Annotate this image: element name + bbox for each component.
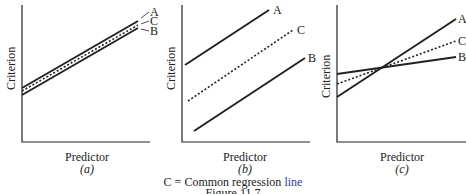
panel-c: A C B Criterion Predictor (c) <box>319 5 466 176</box>
panel-b-label-c: C <box>297 23 305 37</box>
panel-c-sublabel: (c) <box>395 162 408 176</box>
panel-b-ylabel: Criterion <box>164 47 178 90</box>
panel-a-line-b <box>22 28 138 95</box>
panel-a-sublabel: (a) <box>80 162 94 176</box>
panel-c-label-c: C <box>458 34 466 48</box>
figure-canvas: A C B Criterion Predictor (a) A C B Crit… <box>0 0 466 194</box>
panel-a-label-b: B <box>150 24 158 38</box>
panel-a-ylabel: Criterion <box>4 47 18 90</box>
panel-b-line-b <box>194 58 305 131</box>
panel-c-ylabel: Criterion <box>319 55 333 98</box>
panel-c-line-a <box>337 19 456 97</box>
panel-a-leader-c <box>141 21 149 24</box>
panel-b-line-a <box>185 10 269 65</box>
panel-c-label-a: A <box>458 12 466 26</box>
panel-b-label-b: B <box>308 51 316 65</box>
panel-a-line-c <box>22 25 138 91</box>
panel-a-leader-a <box>141 12 149 18</box>
panel-b: A C B Criterion Predictor (b) <box>164 3 316 176</box>
figure-number-clipped: Figure 11.7 <box>0 186 466 194</box>
panel-a-line-a <box>22 21 138 88</box>
panel-b-line-c <box>188 30 293 101</box>
panel-b-sublabel: (b) <box>238 162 252 176</box>
panel-c-label-b: B <box>458 50 466 64</box>
panel-a: A C B Criterion Predictor (a) <box>4 5 159 176</box>
panel-b-label-a: A <box>273 3 282 17</box>
panel-c-line-b <box>337 57 456 74</box>
panel-c-line-c <box>337 41 456 84</box>
panel-a-leader-b <box>141 29 149 31</box>
